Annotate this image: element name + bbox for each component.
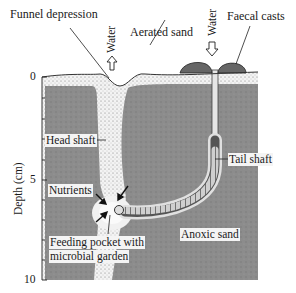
tail-shaft-label: Tail shaft — [228, 153, 273, 166]
funnel-depression-label: Funnel depression — [10, 8, 98, 21]
anoxic-sand-label: Anoxic sand — [180, 228, 240, 241]
water-arrow-left-icon — [107, 56, 117, 70]
faecal-casts — [180, 62, 212, 73]
aerated-sand-label: Aerated sand — [130, 26, 193, 39]
head-shaft-label: Head shaft — [45, 134, 97, 147]
axis-tick-5: 5 — [30, 173, 36, 186]
nutrients-label: Nutrients — [48, 184, 93, 197]
feeding-pocket-label-line2: microbial garden — [49, 250, 129, 263]
water-label-left: Water — [105, 26, 117, 53]
worm-head — [115, 206, 124, 215]
depth-axis-label: Depth (cm) — [12, 162, 24, 215]
anoxic-sand-right — [112, 84, 258, 280]
feeding-pocket-label-line1: Feeding pocket with — [49, 236, 145, 249]
axis-tick-0: 0 — [30, 70, 36, 83]
tail-shaft — [212, 70, 218, 140]
water-label-right: Water — [206, 9, 218, 36]
axis-tick-10: 10 — [24, 273, 36, 286]
faecal-casts-label: Faecal casts — [227, 10, 285, 23]
